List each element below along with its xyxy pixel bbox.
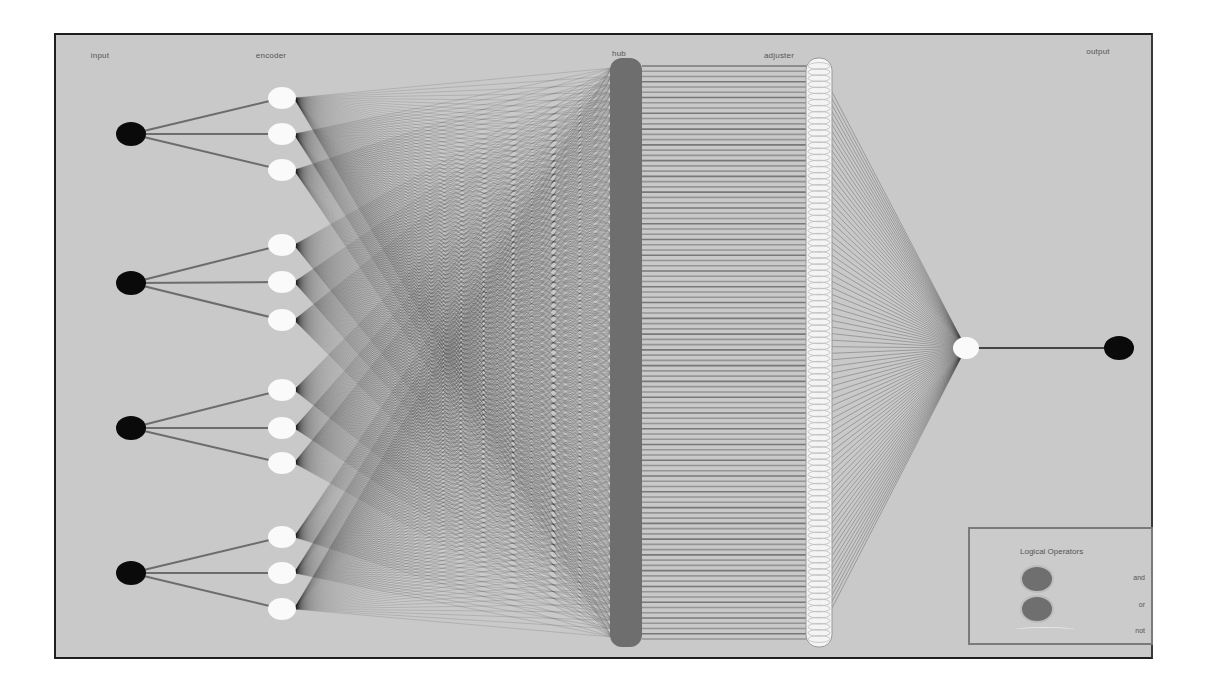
- layer-label-input: input: [91, 51, 109, 60]
- encoder-hub-connections: [294, 68, 612, 637]
- output-node: [1104, 336, 1134, 360]
- legend-and-swatch: [1022, 567, 1052, 591]
- input-node: [116, 416, 146, 440]
- layer-label-hub: hub: [612, 49, 626, 58]
- legend-or-swatch: [1022, 597, 1052, 621]
- adjuster-node-column: [806, 58, 832, 647]
- encoder-node: [268, 309, 296, 331]
- legend-label-or: or: [1139, 601, 1145, 608]
- legend-not-swatch: [1015, 627, 1075, 632]
- merge-node: [953, 337, 979, 359]
- layer-label-encoder: encoder: [256, 51, 286, 60]
- encoder-node: [268, 379, 296, 401]
- encoder-node: [268, 159, 296, 181]
- encoder-node: [268, 123, 296, 145]
- legend-label-and: and: [1133, 574, 1145, 581]
- encoder-node: [268, 526, 296, 548]
- hub-adjuster-connections: [642, 66, 807, 639]
- encoder-node: [268, 87, 296, 109]
- legend-title: Logical Operators: [1020, 547, 1083, 556]
- legend-box: Logical Operators and or not: [968, 527, 1153, 645]
- encoder-node: [268, 562, 296, 584]
- encoder-node: [268, 234, 296, 256]
- encoder-node: [268, 598, 296, 620]
- input-encoder-connections: [131, 98, 282, 609]
- layer-label-output: output: [1086, 47, 1109, 56]
- legend-label-not: not: [1135, 627, 1145, 634]
- input-node: [116, 561, 146, 585]
- encoder-node: [268, 417, 296, 439]
- layer-label-adjuster: adjuster: [764, 51, 794, 60]
- input-node: [116, 122, 146, 146]
- encoder-node: [268, 271, 296, 293]
- adjuster-merge-connections: [831, 90, 966, 610]
- encoder-node: [268, 452, 296, 474]
- hub-bar: [610, 58, 642, 647]
- input-node: [116, 271, 146, 295]
